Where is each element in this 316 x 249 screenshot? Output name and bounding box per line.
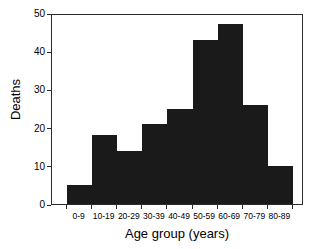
histogram-chart: Deaths 01020304050 0-910-1920-2930-3940-… <box>0 0 316 249</box>
y-axis-tick-group: 01020304050 <box>0 0 51 206</box>
x-tick-mark <box>192 205 193 209</box>
x-tick-label: 0-9 <box>72 210 84 222</box>
y-tick-label: 20 <box>34 122 45 135</box>
y-tick-label: 30 <box>34 83 45 96</box>
x-tick-label: 10-19 <box>93 210 115 222</box>
histogram-bar <box>117 151 142 204</box>
histogram-bar <box>243 105 268 204</box>
y-tick-label: 40 <box>34 45 45 58</box>
histogram-bar <box>167 109 192 205</box>
x-tick-mark <box>141 205 142 209</box>
histogram-bar <box>193 40 218 204</box>
x-axis-title: Age group (years) <box>51 226 303 242</box>
x-tick-label: 40-49 <box>168 210 190 222</box>
bars-layer <box>52 15 302 204</box>
y-tick-label: 10 <box>34 160 45 173</box>
x-tick-mark <box>166 205 167 209</box>
x-tick-mark <box>292 205 293 209</box>
x-tick-label: 60-69 <box>218 210 240 222</box>
x-tick-label: 70-79 <box>243 210 265 222</box>
x-axis-label-group: 0-910-1920-2930-3940-4950-5960-6970-7980… <box>51 210 303 224</box>
y-tick-label: 50 <box>34 7 45 20</box>
x-tick-mark <box>116 205 117 209</box>
histogram-bar <box>142 124 167 204</box>
x-tick-mark <box>66 205 67 209</box>
histogram-bar <box>67 185 92 204</box>
x-tick-label: 80-89 <box>269 210 291 222</box>
y-tick-label: 0 <box>39 198 45 211</box>
histogram-bar <box>268 166 293 204</box>
histogram-bar <box>92 135 117 204</box>
x-tick-mark <box>91 205 92 209</box>
x-tick-label: 30-39 <box>143 210 165 222</box>
plot-area <box>51 14 303 205</box>
x-tick-mark <box>217 205 218 209</box>
x-tick-mark <box>242 205 243 209</box>
x-tick-label: 50-59 <box>193 210 215 222</box>
histogram-bar <box>218 24 243 204</box>
x-tick-mark <box>267 205 268 209</box>
x-tick-label: 20-29 <box>118 210 140 222</box>
